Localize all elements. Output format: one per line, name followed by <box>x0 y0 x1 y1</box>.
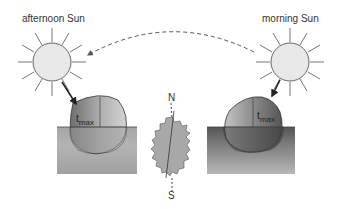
tmax-subscript: max <box>79 118 94 127</box>
morning-sun-label: morning Sun <box>262 13 319 24</box>
sun-ray-arrow-right <box>272 80 280 96</box>
tmax-subscript: max <box>260 115 275 124</box>
north-label: N <box>168 92 175 103</box>
sun-exposure-diagram <box>0 0 344 209</box>
sun-path-arrow <box>88 32 254 55</box>
sun-ray-arrow-left <box>62 82 76 104</box>
tmax-label-right: tmax <box>257 110 275 121</box>
orientation-rose <box>151 117 190 176</box>
afternoon-sun-label: afternoon Sun <box>22 13 85 24</box>
tmax-label-left: tmax <box>76 113 94 124</box>
morning-sun-icon <box>256 28 324 96</box>
north-dashed-line <box>171 103 172 118</box>
south-label: S <box>168 190 175 201</box>
afternoon-sun-icon <box>18 28 86 96</box>
